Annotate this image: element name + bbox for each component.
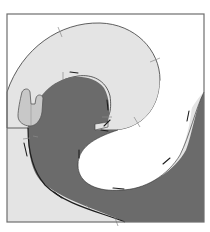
- quilt-block-svg: [0, 0, 210, 232]
- quilt-diagram: quilt-block-pattern: [0, 0, 210, 232]
